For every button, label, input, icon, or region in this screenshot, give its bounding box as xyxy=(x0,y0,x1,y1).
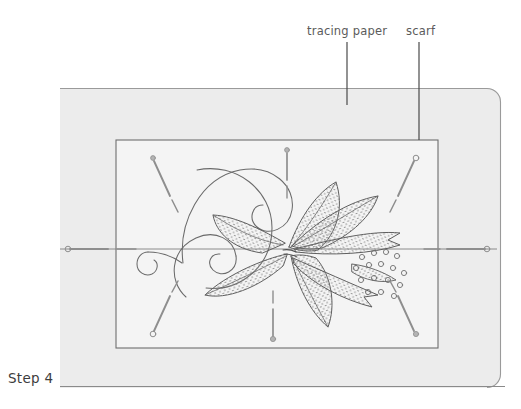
illustration-stage: tracing paper scarf Step 4 xyxy=(0,0,521,409)
step-illustration xyxy=(0,0,521,409)
step-title: Step 4 xyxy=(8,370,53,386)
annotation-label-tracing-paper: tracing paper xyxy=(307,24,387,38)
annotation-label-scarf: scarf xyxy=(406,24,435,38)
